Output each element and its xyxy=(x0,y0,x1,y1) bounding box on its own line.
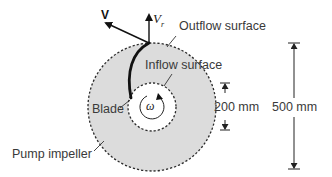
radial-velocity-symbol: V xyxy=(153,11,161,26)
outer-diameter-value: 500 mm xyxy=(271,101,318,114)
absolute-velocity-label: V xyxy=(101,9,109,21)
outflow-surface-label: Outflow surface xyxy=(179,20,266,33)
absolute-velocity-arrow xyxy=(106,23,149,43)
blade-label: Blade xyxy=(92,103,124,116)
radial-velocity-label: Vr xyxy=(153,12,164,29)
angular-velocity-symbol: ω xyxy=(146,100,154,112)
inflow-surface-label: Inflow surface xyxy=(145,59,222,72)
pump-impeller-diagram: V Vr Outflow surface Inflow surface Blad… xyxy=(0,0,332,177)
inner-diameter-value: 200 mm xyxy=(214,101,259,114)
radial-velocity-subscript: r xyxy=(161,20,164,29)
pump-impeller-label: Pump impeller xyxy=(12,148,92,161)
